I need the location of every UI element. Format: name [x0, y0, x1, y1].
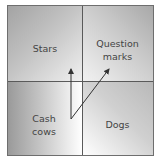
- bcg-matrix: Stars Question marks Cash cows Dogs: [7, 5, 154, 156]
- arrows-overlay: [8, 6, 153, 155]
- arrow-diagonal-icon: [71, 69, 109, 119]
